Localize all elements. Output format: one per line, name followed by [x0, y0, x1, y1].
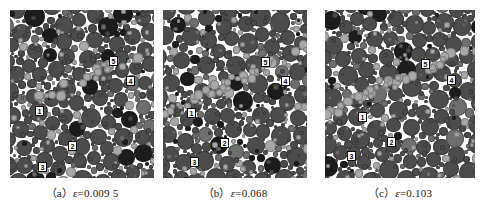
- grain-particle: [177, 19, 181, 23]
- grain-particle: [134, 64, 140, 70]
- grain-particle: [396, 26, 404, 34]
- grain-particle: [145, 30, 149, 34]
- grain-particle: [471, 20, 475, 34]
- grain-particle: [104, 44, 108, 48]
- grain-particle: [179, 43, 188, 52]
- grain-particle: [150, 158, 154, 163]
- grain-particle: [241, 173, 245, 177]
- grain-particle: [128, 132, 133, 137]
- grain-particle: [202, 36, 206, 40]
- grain-particle: [345, 175, 350, 178]
- grain-particle: [145, 115, 149, 119]
- grain-particle: [243, 84, 249, 90]
- grain-particle: [140, 38, 144, 42]
- grain-particle: [85, 30, 88, 33]
- grain-particle: [347, 167, 350, 170]
- grain-particle: [164, 121, 170, 127]
- grain-particle: [141, 70, 144, 73]
- grain-particle: [395, 70, 399, 74]
- grain-particle: [415, 82, 419, 86]
- caption-panel-a: （a）ε=0.009 5: [10, 184, 154, 200]
- grain-particle: [262, 138, 265, 141]
- grain-particle: [306, 122, 307, 127]
- grain-particle: [54, 23, 58, 27]
- grain-particle: [243, 175, 254, 178]
- grain-particle: [471, 165, 474, 168]
- grain-particle: [125, 89, 128, 92]
- grain-particle: [64, 65, 73, 74]
- grain-particle: [195, 138, 199, 142]
- grain-particle: [131, 20, 136, 25]
- grain-particle: [203, 74, 208, 79]
- grain-particle: [77, 33, 83, 39]
- grain-particle: [151, 101, 154, 108]
- grain-particle: [206, 48, 209, 51]
- grain-particle: [351, 127, 355, 131]
- grain-particle: [52, 107, 61, 116]
- grain-particle: [299, 131, 303, 135]
- grain-particle: [378, 45, 381, 48]
- grain-particle: [404, 13, 408, 17]
- grain-particle: [101, 153, 104, 156]
- grain-particle: [203, 10, 206, 13]
- grain-particle: [167, 55, 174, 62]
- grain-particle: [243, 53, 250, 60]
- grain-particle: [12, 92, 18, 98]
- grain-particle: [10, 11, 15, 17]
- grain-particle: [255, 27, 269, 41]
- grain-particle: [55, 10, 61, 12]
- grain-particle: [329, 60, 337, 68]
- shear-band-particle: [392, 84, 398, 90]
- grain-particle: [151, 148, 154, 153]
- grain-particle: [125, 177, 130, 178]
- grain-particle: [19, 57, 23, 61]
- grain-particle: [104, 107, 109, 112]
- shear-band-particle: [44, 93, 49, 98]
- grain-particle: [187, 68, 190, 71]
- shear-band-particle: [291, 47, 300, 56]
- grain-particle: [335, 150, 340, 155]
- region-label-1: 1: [358, 112, 367, 122]
- grain-particle: [425, 96, 428, 99]
- grain-particle: [473, 171, 475, 174]
- grain-particle: [116, 169, 121, 174]
- grain-particle: [471, 139, 475, 143]
- grain-particle: [81, 164, 85, 168]
- grain-particle: [10, 159, 13, 163]
- grain-particle: [180, 97, 183, 100]
- grain-particle: [271, 37, 276, 42]
- region-label-4: 4: [281, 76, 290, 86]
- grain-particle: [110, 99, 113, 102]
- region-label-3: 3: [347, 151, 356, 161]
- grain-particle: [175, 147, 180, 152]
- grain-particle: [451, 31, 456, 36]
- grain-particle: [17, 26, 21, 30]
- grain-particle: [416, 154, 421, 159]
- grain-particle: [399, 98, 402, 101]
- grain-particle: [464, 150, 468, 154]
- grain-particle: [165, 65, 169, 69]
- grain-particle: [337, 142, 341, 146]
- grain-particle: [91, 142, 95, 146]
- grain-particle: [360, 42, 367, 49]
- region-label-5: 5: [421, 59, 430, 69]
- shear-band-particle: [235, 76, 241, 82]
- grain-particle: [59, 52, 64, 57]
- grain-particle: [468, 121, 472, 125]
- region-label-2: 2: [68, 141, 77, 151]
- grain-particle: [378, 130, 383, 135]
- grain-particle: [183, 150, 187, 154]
- grain-particle: [442, 155, 450, 163]
- grain-particle: [10, 146, 13, 153]
- grain-particle: [454, 132, 459, 137]
- grain-particle: [304, 166, 307, 169]
- grain-particle: [246, 116, 253, 123]
- grain-particle: [108, 13, 113, 18]
- grain-particle: [357, 30, 363, 36]
- caption-a-value: 0.009 5: [84, 187, 118, 199]
- grain-particle: [286, 88, 289, 91]
- shear-band-particle: [11, 115, 17, 121]
- grain-particle: [369, 123, 374, 128]
- grain-particle: [56, 129, 61, 134]
- grain-particle: [124, 45, 132, 53]
